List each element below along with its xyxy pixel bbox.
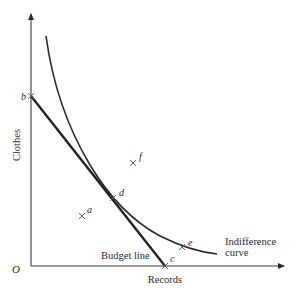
y-axis-label: Clothes: [11, 129, 22, 161]
x-axis-label: Records: [148, 274, 182, 285]
point-d-label: d: [119, 187, 125, 198]
origin-label: O: [12, 263, 20, 275]
point-a-marker: [79, 213, 85, 219]
point-a-label: a: [87, 204, 92, 215]
point-b-label: b: [21, 91, 26, 102]
budget-line: [31, 96, 165, 266]
indifference-curve-label-line1: Indifference: [225, 236, 276, 247]
point-f-marker: [130, 160, 136, 166]
indifference-curve-label-line2: curve: [225, 247, 249, 258]
point-f-label: f: [139, 151, 143, 162]
indifference-curve: [46, 36, 217, 254]
budget-line-label: Budget line: [101, 250, 150, 261]
point-c-label: c: [170, 253, 175, 264]
point-e-label: e: [188, 237, 193, 248]
diagram-canvas: b c d a e f O Records Clothes Budget lin…: [0, 0, 300, 292]
